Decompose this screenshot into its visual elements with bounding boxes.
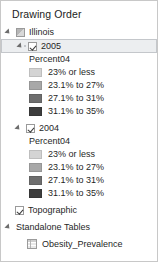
legend-label: 27.1% to 31% (48, 174, 104, 187)
legend-label: 27.1% to 31% (48, 92, 104, 105)
legend-swatch (29, 163, 42, 172)
legend-field-label: Percent04 (29, 135, 70, 148)
expander-triangle-icon[interactable] (17, 42, 26, 51)
expander-triangle-icon[interactable] (15, 124, 24, 133)
tree-item-illinois[interactable]: Illinois (1, 25, 157, 39)
legend-item[interactable]: 23.1% to 27% (1, 79, 157, 92)
tree-item-table-obesity-prevalence[interactable]: Obesity_Prevalence (1, 237, 157, 251)
legend-swatch (29, 150, 42, 159)
legend-item[interactable]: 31.1% to 35% (1, 105, 157, 118)
tree-item-basemap-topographic[interactable]: Topographic (1, 203, 157, 217)
table-grid-icon (27, 239, 37, 249)
legend-item[interactable]: 31.1% to 35% (1, 187, 157, 200)
expander-triangle-icon[interactable] (5, 223, 14, 232)
tree-item-layer-2005[interactable]: 2005 (1, 39, 157, 53)
legend-field-label: Percent04 (29, 53, 70, 66)
legend-item[interactable]: 23% or less (1, 66, 157, 79)
legend-item[interactable]: 23.1% to 27% (1, 161, 157, 174)
legend-swatch (29, 68, 42, 77)
tree-item-label: Illinois (29, 25, 54, 39)
tree-item-label: Topographic (28, 203, 77, 217)
legend-item[interactable]: 23% or less (1, 148, 157, 161)
basemap-visibility-checkbox[interactable] (15, 206, 24, 215)
legend-label: 23.1% to 27% (48, 79, 104, 92)
legend-label: 31.1% to 35% (48, 105, 104, 118)
legend-swatch (29, 81, 42, 90)
legend-item[interactable]: 27.1% to 31% (1, 92, 157, 105)
tree-item-label: Standalone Tables (16, 220, 90, 234)
layer-raster-icon (16, 28, 25, 37)
layer-visibility-checkbox[interactable] (26, 124, 35, 133)
tree-item-label: 2004 (39, 121, 59, 135)
tree-item-label: 2005 (41, 39, 61, 53)
page-title: Drawing Order (1, 1, 157, 24)
expander-triangle-icon[interactable] (5, 28, 14, 37)
legend-label: 23% or less (48, 66, 95, 79)
legend-label: 31.1% to 35% (48, 187, 104, 200)
legend-item[interactable]: 27.1% to 31% (1, 174, 157, 187)
layer-visibility-checkbox[interactable] (28, 42, 37, 51)
legend-label: 23.1% to 27% (48, 161, 104, 174)
layer-tree: Illinois 2005 Percent04 23% or less 23.1… (1, 24, 157, 251)
legend-swatch (29, 189, 42, 198)
legend-field-heading-2005: Percent04 (1, 53, 157, 66)
drawing-order-panel: Drawing Order Illinois 2005 Percent04 23… (0, 0, 158, 262)
tree-item-layer-2004[interactable]: 2004 (1, 121, 157, 135)
tree-item-standalone-tables[interactable]: Standalone Tables (1, 220, 157, 234)
legend-field-heading-2004: Percent04 (1, 135, 157, 148)
legend-swatch (29, 94, 42, 103)
tree-item-label: Obesity_Prevalence (42, 237, 123, 251)
legend-swatch (29, 176, 42, 185)
legend-swatch (29, 107, 42, 116)
legend-label: 23% or less (48, 148, 95, 161)
